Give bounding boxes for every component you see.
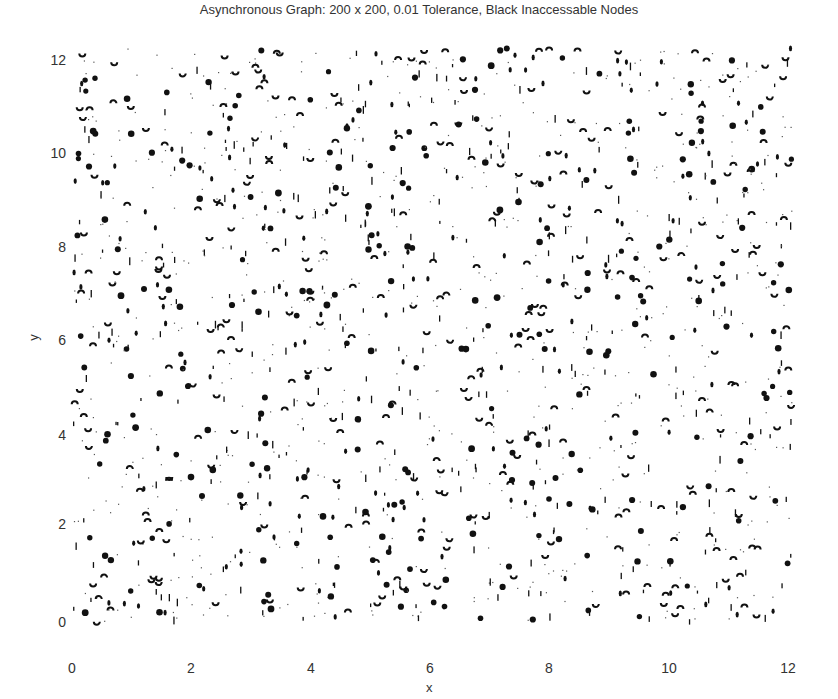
small-dot-marker — [302, 567, 303, 568]
filled-dot-marker — [688, 81, 694, 87]
half-dot-marker — [728, 585, 731, 591]
half-arc-down-marker — [628, 455, 634, 458]
filled-dot-marker — [249, 462, 254, 467]
small-dot-marker — [783, 447, 784, 448]
small-dot-marker — [473, 256, 474, 257]
half-arc-down-marker — [460, 77, 466, 80]
half-dot-marker — [170, 146, 173, 152]
half-dot-marker — [532, 55, 535, 61]
vertical-tick-marker — [341, 149, 342, 155]
filled-dot-marker — [466, 515, 472, 521]
half-arc-down-marker — [228, 227, 234, 230]
half-arc-up-marker — [195, 207, 201, 210]
half-dot-marker — [513, 53, 516, 59]
small-dot-marker — [125, 248, 126, 249]
filled-dot-marker — [686, 171, 693, 178]
filled-dot-marker — [102, 216, 109, 223]
half-dot-marker — [503, 253, 506, 259]
small-dot-marker — [496, 352, 497, 353]
small-dot-marker — [539, 155, 540, 156]
small-dot-marker — [324, 477, 325, 478]
vertical-tick-marker — [557, 503, 558, 509]
small-dot-marker — [681, 114, 682, 115]
vertical-tick-marker — [245, 251, 246, 256]
vertical-tick-marker — [776, 222, 777, 226]
vertical-tick-marker — [705, 550, 706, 555]
small-dot-marker — [474, 601, 475, 602]
half-arc-down-marker — [785, 163, 791, 166]
small-dot-marker — [699, 144, 700, 145]
filled-dot-marker — [763, 395, 769, 401]
small-dot-marker — [359, 127, 360, 128]
half-arc-down-marker — [208, 329, 214, 332]
half-dot-marker — [616, 58, 619, 64]
small-dot-marker — [714, 544, 715, 545]
vertical-tick-marker — [98, 332, 99, 339]
filled-dot-marker — [544, 225, 550, 231]
half-dot-marker — [366, 211, 369, 217]
filled-dot-marker — [536, 442, 542, 448]
vertical-tick-marker — [286, 143, 287, 149]
half-arc-up-marker — [737, 574, 743, 577]
vertical-tick-marker — [177, 400, 178, 404]
small-dot-marker — [669, 355, 670, 356]
half-arc-up-marker — [217, 203, 223, 206]
half-arc-down-marker — [223, 319, 229, 322]
small-dot-marker — [85, 593, 86, 594]
small-dot-marker — [535, 255, 536, 256]
small-dot-marker — [79, 408, 80, 409]
filled-dot-marker — [368, 348, 375, 355]
half-arc-up-marker — [489, 218, 495, 221]
vertical-tick-marker — [370, 604, 371, 608]
vertical-tick-marker — [549, 613, 550, 620]
small-dot-marker — [742, 192, 743, 193]
small-dot-marker — [204, 255, 205, 256]
small-dot-marker — [399, 92, 400, 93]
small-dot-marker — [392, 538, 393, 539]
small-dot-marker — [497, 145, 498, 146]
half-arc-up-marker — [273, 249, 279, 252]
vertical-tick-marker — [161, 594, 162, 600]
vertical-tick-marker — [156, 482, 157, 489]
filled-dot-marker — [178, 352, 183, 357]
small-dot-marker — [78, 521, 79, 522]
small-dot-marker — [409, 209, 410, 210]
small-dot-marker — [209, 608, 210, 609]
small-dot-marker — [291, 307, 292, 308]
filled-dot-marker — [156, 609, 163, 616]
vertical-tick-marker — [420, 412, 421, 419]
half-arc-up-marker — [418, 530, 424, 533]
small-dot-marker — [496, 273, 497, 274]
filled-dot-marker — [632, 321, 638, 327]
small-dot-marker — [686, 246, 687, 247]
small-dot-marker — [361, 471, 362, 472]
half-arc-down-marker — [447, 340, 453, 343]
vertical-tick-marker — [334, 583, 335, 588]
half-arc-up-marker — [707, 410, 713, 413]
vertical-tick-marker — [669, 214, 670, 221]
half-arc-down-marker — [411, 478, 417, 481]
small-dot-marker — [785, 127, 786, 128]
vertical-tick-marker — [549, 425, 550, 430]
filled-dot-marker — [510, 450, 516, 456]
vertical-tick-marker — [399, 581, 400, 589]
small-dot-marker — [416, 566, 417, 567]
half-arc-up-marker — [437, 296, 443, 299]
small-dot-marker — [636, 308, 637, 309]
small-dot-marker — [673, 78, 674, 79]
filled-dot-marker — [196, 195, 203, 202]
small-dot-marker — [276, 117, 277, 118]
small-dot-marker — [354, 139, 355, 140]
small-dot-marker — [519, 371, 520, 372]
half-arc-up-marker — [658, 506, 664, 509]
small-dot-marker — [318, 441, 319, 442]
small-dot-marker — [343, 289, 344, 290]
filled-dot-marker — [605, 348, 611, 354]
half-arc-up-marker — [256, 86, 262, 89]
small-dot-marker — [488, 598, 489, 599]
filled-dot-marker — [188, 474, 195, 481]
filled-dot-marker — [627, 155, 634, 162]
half-arc-up-marker — [332, 140, 338, 143]
half-arc-up-marker — [143, 512, 149, 515]
vertical-tick-marker — [746, 62, 747, 67]
